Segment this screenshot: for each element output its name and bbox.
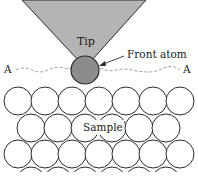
front-atom-arrowhead-icon — [99, 61, 106, 66]
tip-label: Tip — [77, 35, 95, 48]
scan-path-line — [16, 66, 72, 72]
bottom-mask — [0, 172, 198, 182]
diagram-svg: Tip Front atom Sample A A — [0, 0, 198, 182]
diagram-canvas: Tip Front atom Sample A A — [0, 0, 198, 182]
line-label-left: A — [3, 63, 12, 75]
line-label-right: A — [182, 63, 191, 75]
sample-label: Sample — [83, 121, 123, 133]
front-atom — [71, 56, 99, 84]
front-atom-label: Front atom — [127, 48, 187, 60]
scan-path-line-right — [100, 66, 180, 72]
